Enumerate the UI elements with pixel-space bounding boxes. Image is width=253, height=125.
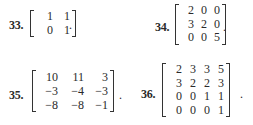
matrix-cell: 0 [207,4,220,18]
matrix-cell: 1 [196,90,210,104]
matrix-cell: 0 [36,24,53,38]
matrix-entries: 10 11 3 −3 −4 −3 −8 −8 −1 [36,70,110,112]
matrix: 2 3 3 5 3 2 2 3 0 0 1 1 0 0 0 1 [162,63,230,117]
matrix-entries: 1 1 0 1 [34,10,72,37]
period: . [119,88,122,103]
matrix-cell: 3 [84,70,108,84]
matrix-cell: 0 [168,104,182,118]
matrix-cell: −8 [58,98,84,112]
matrix-cell: 1 [53,24,70,38]
matrix-cell: −1 [84,98,108,112]
matrix-cell: 3 [168,77,182,91]
period: . [240,87,243,102]
matrix-cell: −4 [58,84,84,98]
matrix-cell: 0 [181,31,194,45]
matrix-cell: 1 [210,90,224,104]
exercise-number: 35. [9,88,23,103]
period: . [69,18,72,33]
matrix-cell: 2 [194,18,207,32]
matrix-cell: −3 [38,84,58,98]
matrix-cell: 5 [207,31,220,45]
matrix-cell: 2 [196,77,210,91]
matrix-entries: 2 0 0 3 2 0 0 0 5 [179,4,222,45]
matrix-cell: 0 [182,104,196,118]
matrix-cell: −8 [38,98,58,112]
matrix-cell: 2 [182,77,196,91]
matrix-cell: 0 [194,31,207,45]
matrix-cell: 1 [210,104,224,118]
exercise-number: 34. [155,20,169,35]
matrix-cell: 10 [38,70,58,84]
matrix-cell: 0 [168,90,182,104]
matrix-cell: 3 [210,77,224,91]
matrix-cell: 2 [181,4,194,18]
matrix-cell: 0 [196,104,210,118]
matrix-cell: 2 [168,63,182,77]
matrix-cell: 3 [181,18,194,32]
matrix-cell: 0 [194,4,207,18]
period: . [223,20,226,35]
matrix-cell: 11 [58,70,84,84]
exercise-number: 33. [9,18,23,33]
matrix-cell: 5 [210,63,224,77]
matrix-cell: −3 [84,84,108,98]
matrix-cell: 1 [53,10,70,24]
matrix-entries: 2 3 3 5 3 2 2 3 0 0 1 1 0 0 0 1 [166,63,226,117]
matrix: 10 11 3 −3 −4 −3 −8 −8 −1 [32,70,114,112]
right-bracket [110,70,114,112]
matrix-cell: 3 [182,63,196,77]
matrix-cell: 0 [207,18,220,32]
matrix-cell: 3 [196,63,210,77]
matrix-cell: 1 [36,10,53,24]
right-bracket [72,10,76,37]
right-bracket [226,63,230,117]
matrix: 2 0 0 3 2 0 0 0 5 [175,4,226,45]
matrix-cell: 0 [182,90,196,104]
exercise-number: 36. [141,87,155,102]
